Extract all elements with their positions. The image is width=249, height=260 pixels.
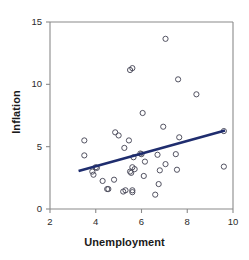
x-tick-label: 8 [177, 216, 197, 227]
data-point [173, 152, 178, 157]
data-point [82, 153, 87, 158]
series-countries [82, 36, 227, 197]
data-point [91, 172, 96, 177]
data-point [142, 159, 147, 164]
y-tick-label: 0 [20, 203, 42, 214]
data-point [126, 138, 131, 143]
data-point [111, 177, 116, 182]
data-point [221, 164, 226, 169]
regression-line [79, 130, 225, 171]
data-point [116, 133, 121, 138]
data-point [122, 145, 127, 150]
x-tick-label: 10 [223, 216, 243, 227]
y-tick-label: 5 [20, 141, 42, 152]
data-point [163, 36, 168, 41]
data-point [156, 181, 161, 186]
data-point [174, 167, 179, 172]
data-point [141, 173, 146, 178]
data-point [163, 162, 168, 167]
y-tick-label: 10 [20, 78, 42, 89]
x-tick-label: 6 [132, 216, 152, 227]
data-point [140, 110, 145, 115]
data-point [157, 168, 162, 173]
plot-canvas [0, 0, 249, 260]
data-point [177, 135, 182, 140]
data-point [194, 92, 199, 97]
y-tick-label: 15 [20, 16, 42, 27]
x-axis-title: Unemployment [0, 236, 249, 248]
data-point [113, 130, 118, 135]
data-point [100, 178, 105, 183]
data-point [82, 138, 87, 143]
scatter-plot-figure: Inflation Unemployment 051015246810 [0, 0, 249, 260]
x-tick-label: 4 [86, 216, 106, 227]
data-point [161, 124, 166, 129]
data-point [176, 77, 181, 82]
x-tick-label: 2 [40, 216, 60, 227]
data-point [153, 192, 158, 197]
data-point [155, 152, 160, 157]
